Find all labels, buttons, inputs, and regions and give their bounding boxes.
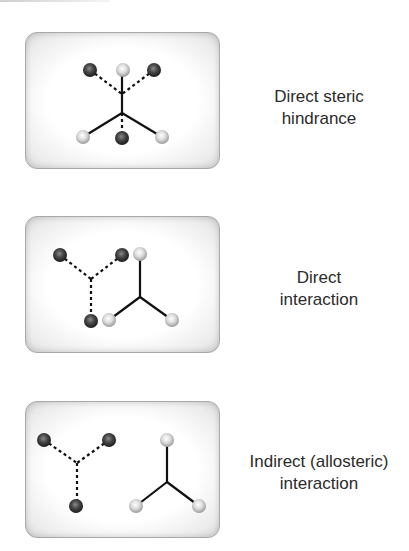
caption-line: Direct [234,267,404,289]
solid-ligand-bonds [136,440,199,506]
steric-hindrance-diagram [26,33,219,168]
caption-indirect-allosteric-interaction: Indirect (allosteric) interaction [234,451,404,495]
dark-atom [115,131,129,145]
direct-interaction-diagram [26,217,219,352]
light-atom [116,63,130,77]
dashed-ligand-bonds [44,440,109,506]
dark-atom [37,433,51,447]
caption-line: interaction [234,473,404,495]
light-atom [76,130,90,144]
dark-atom [102,433,116,447]
caption-line: Indirect (allosteric) [234,451,404,473]
dark-atom [83,63,97,77]
light-atom [102,313,116,327]
solid-ligand-bonds [109,255,172,320]
dark-atom [84,314,98,328]
light-atom [129,499,143,513]
light-atom [160,433,174,447]
caption-line: interaction [234,289,404,311]
dark-atom [53,248,67,262]
dark-atom [147,63,161,77]
scan-artifact-line [0,0,110,2]
light-atom [165,313,179,327]
dashed-ligand-bonds [60,255,122,320]
dark-atom [115,248,129,262]
light-atom [133,247,147,261]
light-atom [192,499,206,513]
caption-line: hindrance [234,108,404,130]
caption-direct-interaction: Direct interaction [234,267,404,311]
caption-line: Direct steric [234,86,404,108]
dark-atom [69,499,83,513]
panel-direct-interaction [25,216,220,353]
caption-direct-steric-hindrance: Direct steric hindrance [234,86,404,130]
panel-direct-steric-hindrance [25,32,220,169]
light-atom [155,130,169,144]
allosteric-interaction-diagram [26,402,219,537]
panel-indirect-allosteric-interaction [25,401,220,538]
